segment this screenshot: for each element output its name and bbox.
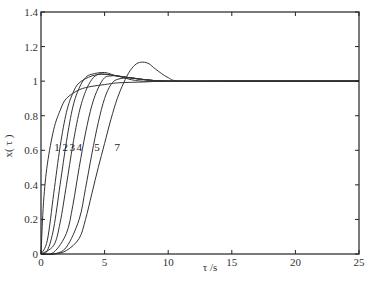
y-tick-label: 0.8 <box>24 110 38 122</box>
y-tick-label: 0.2 <box>24 213 38 225</box>
curve-label-5: 5 <box>94 141 100 153</box>
curve-label-3: 3 <box>69 141 75 153</box>
curve-6 <box>41 78 359 255</box>
x-tick-label: 10 <box>163 256 175 268</box>
y-axis-label: x( τ ) <box>2 134 15 157</box>
curve-label-1: 1 <box>54 141 60 153</box>
curve-7 <box>41 62 359 254</box>
curve-2 <box>41 74 359 254</box>
x-axis-label: τ /s <box>203 261 218 273</box>
y-tick-label: 0.6 <box>24 144 38 156</box>
curve-label-7: 7 <box>115 141 121 153</box>
y-tick-label: 1.2 <box>24 41 38 53</box>
curve-5 <box>41 76 359 255</box>
y-tick-label: 0.4 <box>24 179 38 191</box>
x-tick-label: 5 <box>102 256 108 268</box>
x-tick-label: 0 <box>38 256 44 268</box>
line-chart: 051015202500.20.40.60.811.21.4123457 x( … <box>0 0 369 285</box>
curve-label-4: 4 <box>76 141 82 153</box>
plot-area: 051015202500.20.40.60.811.21.4123457 <box>24 6 365 268</box>
y-tick-label: 1.4 <box>24 6 38 18</box>
curve-4 <box>41 74 359 254</box>
x-tick-label: 15 <box>226 256 238 268</box>
y-tick-label: 0 <box>33 248 39 260</box>
curve-1 <box>41 81 359 254</box>
x-tick-label: 25 <box>354 256 366 268</box>
axes-frame <box>41 12 359 254</box>
x-tick-label: 20 <box>290 256 302 268</box>
curve-label-2: 2 <box>62 141 68 153</box>
curve-3 <box>41 72 359 254</box>
y-tick-label: 1 <box>33 75 39 87</box>
